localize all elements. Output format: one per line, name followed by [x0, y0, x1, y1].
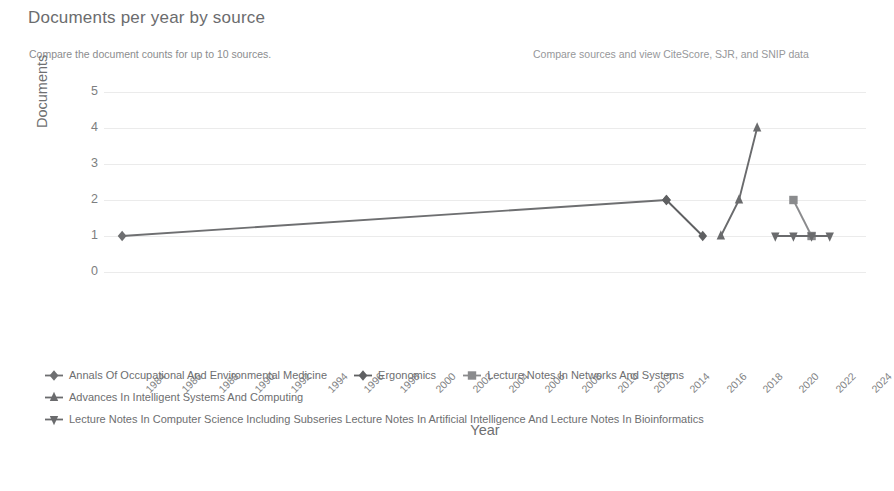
triangle-up-marker — [50, 392, 58, 401]
triangle-down-icon — [44, 413, 64, 426]
series-line — [793, 200, 811, 236]
plot-area: 012345 198419861988199019921994199619982… — [104, 92, 866, 272]
square-icon — [462, 369, 482, 382]
y-axis-tick-label: 5 — [58, 84, 98, 98]
diamond-marker — [50, 370, 59, 381]
triangle-down-marker — [50, 416, 58, 425]
page-title: Documents per year by source — [28, 8, 265, 28]
series-line — [666, 200, 702, 236]
triangle-up-icon — [44, 391, 64, 404]
series-line — [721, 128, 757, 236]
legend-item[interactable]: Annals Of Occupational And Environmental… — [44, 368, 327, 382]
legend-item[interactable]: Ergonomics — [353, 368, 436, 382]
y-axis-label: Documents — [34, 55, 50, 128]
triangle-up-marker — [735, 194, 743, 203]
legend-item-label: Lecture Notes In Networks And Systems — [487, 368, 684, 382]
y-axis-tick-label: 3 — [58, 156, 98, 170]
square-marker — [789, 196, 797, 204]
legend-row: Advances In Intelligent Systems And Comp… — [44, 390, 864, 404]
gridline — [104, 272, 866, 273]
diamond-icon — [353, 369, 373, 382]
compare-sources-link[interactable]: Compare sources and view CiteScore, SJR,… — [533, 48, 809, 60]
legend-item-label: Advances In Intelligent Systems And Comp… — [69, 390, 303, 404]
legend-row: Lecture Notes In Computer Science Includ… — [44, 412, 864, 426]
legend-item[interactable]: Advances In Intelligent Systems And Comp… — [44, 390, 303, 404]
triangle-down-marker — [771, 232, 779, 241]
triangle-up-marker — [753, 122, 761, 131]
chart-legend: Annals Of Occupational And Environmental… — [44, 368, 864, 434]
legend-item-label: Ergonomics — [378, 368, 436, 382]
legend-row: Annals Of Occupational And Environmental… — [44, 368, 864, 382]
y-axis-tick-label: 1 — [58, 228, 98, 242]
y-axis-tick-label: 2 — [58, 192, 98, 206]
series-lines — [104, 92, 866, 272]
diamond-icon — [44, 369, 64, 382]
y-axis-tick-label: 4 — [58, 120, 98, 134]
x-axis-tick-label: 2024 — [869, 370, 894, 395]
triangle-down-marker — [826, 232, 834, 241]
square-marker — [468, 371, 476, 379]
triangle-down-marker — [789, 232, 797, 241]
series-line — [122, 200, 666, 236]
diamond-marker — [118, 231, 127, 242]
legend-item-label: Lecture Notes In Computer Science Includ… — [69, 412, 704, 426]
diamond-marker — [359, 370, 368, 381]
legend-item[interactable]: Lecture Notes In Networks And Systems — [462, 368, 684, 382]
legend-item[interactable]: Lecture Notes In Computer Science Includ… — [44, 412, 704, 426]
legend-item-label: Annals Of Occupational And Environmental… — [69, 368, 327, 382]
page-subtitle: Compare the document counts for up to 10… — [29, 48, 271, 60]
y-axis-tick-label: 0 — [58, 264, 98, 278]
